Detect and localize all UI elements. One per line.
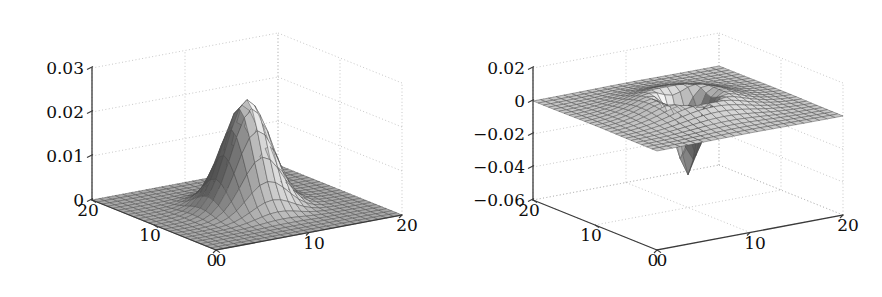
plot-canvas-left: 00.010.020.030102001020 [0, 0, 441, 297]
gridline-x-floor [626, 183, 750, 233]
surface-mesh [533, 66, 843, 175]
z-tick-label: 0.02 [487, 58, 525, 78]
z-tick-label: 0.02 [46, 102, 84, 122]
z-tick-label: −0.04 [473, 157, 525, 177]
gridline-z [719, 132, 843, 182]
y-tick-label: 20 [518, 200, 540, 220]
z-tick-label: −0.02 [473, 124, 525, 144]
gridline-y-floor [595, 190, 781, 225]
surface-plot-right: −0.06−0.04−0.0200.020102001020 [441, 0, 882, 297]
z-tick-label: 0.03 [46, 58, 84, 78]
surface-plot-left: 00.010.020.030102001020 [0, 0, 441, 297]
figure-container: 00.010.020.030102001020 −0.06−0.04−0.020… [0, 0, 882, 297]
z-tick-label: −0.06 [473, 190, 525, 210]
gridline-z [278, 33, 402, 83]
x-tick-label: 0 [216, 250, 227, 270]
x-tick-label: 20 [396, 215, 418, 235]
x-tick-label: 20 [837, 215, 859, 235]
x-tick-label: 0 [657, 250, 668, 270]
plot-canvas-right: −0.06−0.04−0.0200.020102001020 [441, 0, 882, 297]
y-tick-label: 20 [77, 200, 99, 220]
y-tick-label: 10 [580, 225, 602, 245]
z-tick-label: 0 [514, 91, 525, 111]
y-tick-label: 10 [139, 225, 161, 245]
x-tick-label: 10 [744, 233, 766, 253]
x-tick-label: 10 [303, 233, 325, 253]
z-tick-label: 0.01 [46, 146, 84, 166]
